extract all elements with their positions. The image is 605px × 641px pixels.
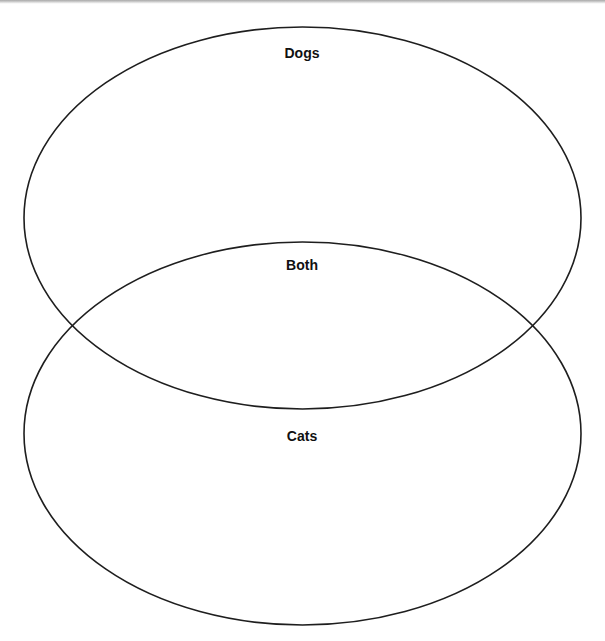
venn-diagram	[0, 0, 605, 641]
both-label: Both	[286, 257, 318, 273]
dogs-set-ellipse	[24, 27, 581, 409]
cats-label: Cats	[287, 428, 317, 444]
dogs-label: Dogs	[285, 45, 320, 61]
